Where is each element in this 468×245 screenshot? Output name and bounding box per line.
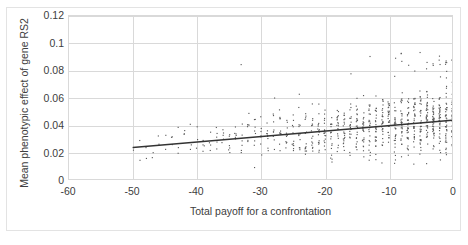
scatter-point [153, 152, 154, 153]
scatter-point [451, 60, 452, 61]
scatter-point [445, 149, 446, 150]
scatter-point [305, 119, 306, 120]
scatter-point [356, 121, 357, 122]
scatter-point [349, 125, 350, 126]
x-tick-label: -60 [48, 185, 88, 197]
scatter-point [241, 150, 242, 151]
scatter-point [337, 119, 338, 120]
scatter-point [375, 154, 376, 155]
scatter-point [395, 123, 396, 124]
scatter-point [330, 124, 331, 125]
scatter-point [221, 142, 222, 143]
scatter-point [414, 130, 415, 131]
scatter-point [426, 125, 427, 126]
scatter-point [413, 98, 414, 99]
scatter-point [293, 114, 294, 115]
scatter-point [305, 154, 306, 155]
scatter-point [394, 110, 395, 111]
scatter-point [419, 90, 420, 91]
scatter-point [446, 142, 447, 143]
scatter-point [318, 104, 319, 105]
scatter-point [394, 107, 395, 108]
scatter-point [401, 113, 402, 114]
scatter-point [343, 143, 344, 144]
scatter-point [190, 149, 191, 150]
scatter-point [369, 131, 370, 132]
scatter-point [312, 151, 313, 152]
scatter-point [267, 138, 268, 139]
scatter-point [247, 124, 248, 125]
scatter-point [349, 152, 350, 153]
scatter-point [356, 98, 357, 99]
scatter-point [407, 130, 408, 131]
scatter-point [331, 145, 332, 146]
scatter-point [439, 111, 440, 112]
scatter-point [254, 130, 255, 131]
scatter-point [394, 76, 395, 77]
scatter-point [388, 142, 389, 143]
scatter-point [178, 147, 179, 148]
scatter-point [433, 65, 434, 66]
scatter-point [229, 134, 230, 135]
scatter-point [260, 143, 261, 144]
scatter-point [401, 131, 402, 132]
scatter-point [439, 150, 440, 151]
scatter-point [426, 134, 427, 135]
scatter-point [413, 106, 414, 107]
scatter-point [433, 118, 434, 119]
scatter-point [229, 145, 230, 146]
scatter-point [235, 133, 236, 134]
scatter-point [318, 134, 319, 135]
scatter-point [445, 135, 446, 136]
scatter-point [394, 102, 395, 103]
scatter-point [369, 160, 370, 161]
scatter-point [210, 132, 211, 133]
scatter-point [420, 150, 421, 151]
scatter-point [432, 128, 433, 129]
scatter-point [375, 131, 376, 132]
scatter-point [363, 117, 364, 118]
scatter-point [171, 137, 172, 138]
scatter-point [202, 144, 203, 145]
scatter-point [318, 144, 319, 145]
scatter-point [298, 134, 299, 135]
scatter-point [152, 157, 153, 158]
scatter-point [402, 127, 403, 128]
scatter-point [285, 141, 286, 142]
scatter-point [383, 142, 384, 143]
scatter-point [388, 135, 389, 136]
scatter-point [394, 163, 395, 164]
scatter-point [343, 140, 344, 141]
scatter-point [446, 71, 447, 72]
scatter-point [229, 147, 230, 148]
scatter-point [432, 116, 433, 117]
scatter-point [439, 115, 440, 116]
scatter-point [414, 138, 415, 139]
scatter-point [433, 101, 434, 102]
scatter-point [350, 103, 351, 104]
scatter-point [369, 140, 370, 141]
scatter-point [395, 159, 396, 160]
scatter-point [426, 110, 427, 111]
scatter-point [350, 73, 351, 74]
scatter-point [408, 119, 409, 120]
scatter-point [375, 128, 376, 129]
scatter-point [401, 123, 402, 124]
scatter-point [363, 146, 364, 147]
scatter-point [408, 102, 409, 103]
scatter-point [370, 155, 371, 156]
scatter-point [217, 133, 218, 134]
scatter-point [394, 122, 395, 123]
scatter-point [344, 122, 345, 123]
scatter-point [433, 123, 434, 124]
scatter-point [451, 104, 452, 105]
scatter-point [382, 99, 383, 100]
scatter-point [196, 148, 197, 149]
scatter-point [446, 117, 447, 118]
scatter-point [369, 125, 370, 126]
scatter-point [247, 141, 248, 142]
scatter-point [287, 127, 288, 128]
scatter-point [324, 110, 325, 111]
scatter-point [440, 159, 441, 160]
scatter-point [343, 146, 344, 147]
